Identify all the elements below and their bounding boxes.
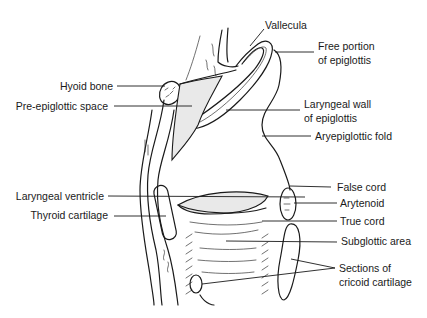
label-aryepiglottic-fold: Aryepiglottic fold (315, 130, 392, 142)
label-hyoid-bone: Hyoid bone (60, 80, 113, 92)
svg-text:of epiglottis: of epiglottis (318, 54, 371, 66)
label-true-cord: True cord (340, 215, 385, 227)
label-thyroid-cartilage: Thyroid cartilage (30, 209, 108, 221)
label-laryngeal-wall-epiglottis: Laryngeal wall (304, 98, 371, 110)
label-sections-cricoid-cartilage: Sections of (339, 262, 391, 274)
label-laryngeal-ventricle: Laryngeal ventricle (16, 190, 104, 202)
label-free-portion-epiglottis: Free portion (318, 40, 375, 52)
cricoid-cartilage-anterior (190, 275, 202, 293)
aryepiglottic-fold-outline (262, 50, 290, 190)
svg-text:cricoid cartilage: cricoid cartilage (339, 276, 412, 288)
cricoid-cartilage-posterior (278, 224, 300, 300)
leader-lines (108, 29, 337, 284)
anatomy-illustration (140, 28, 300, 305)
label-pre-epiglottic-space: Pre-epiglottic space (16, 100, 108, 112)
larynx-diagram: Vallecula Free portion of epiglottis Hyo… (0, 0, 427, 318)
label-false-cord: False cord (337, 181, 386, 193)
label-subglottic-area: Subglottic area (341, 235, 411, 247)
pre-epiglottic-space (172, 76, 222, 160)
svg-text:of epiglottis: of epiglottis (304, 112, 357, 124)
label-vallecula: Vallecula (265, 19, 307, 31)
label-arytenoid: Arytenoid (340, 197, 385, 209)
labels: Vallecula Free portion of epiglottis Hyo… (16, 19, 412, 288)
